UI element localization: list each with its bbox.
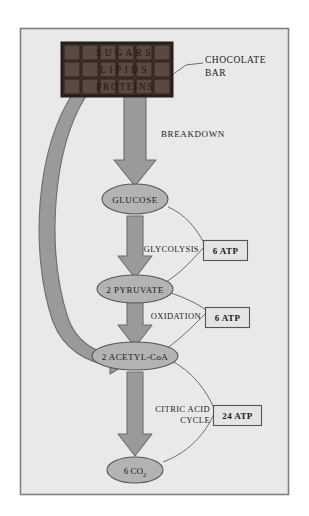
node-pyruvate-label: 2 PYRUVATE bbox=[106, 285, 164, 295]
step-glycolysis-label: GLYCOLYSIS bbox=[144, 244, 199, 254]
chocolate-bar-label-line2: BAR bbox=[205, 68, 226, 78]
atp-box-citric-acid-cycle-value: 24 ATP bbox=[222, 411, 253, 421]
step-citric-acid-cycle-label-line2: CYCLE bbox=[180, 415, 210, 425]
chocolate-row-label-proteins: PROTEINS bbox=[96, 82, 154, 92]
node-co2-label-main: 6 CO bbox=[124, 466, 144, 476]
node-co2-label: 6 CO2 bbox=[124, 466, 147, 478]
node-co2: 6 CO2 bbox=[107, 457, 163, 483]
step-citric-acid-cycle-label-line1: CITRIC ACID bbox=[155, 404, 210, 414]
chocolate-row-label-lipids: LIPIDS bbox=[100, 65, 150, 75]
chocolate-bar: SUGARS LIPIDS PROTEINS bbox=[61, 42, 173, 97]
atp-box-oxidation-value: 6 ATP bbox=[215, 313, 241, 323]
node-co2-label-subscript: 2 bbox=[143, 471, 146, 478]
node-acetyl-coa: 2 ACETYL-CoA bbox=[92, 342, 178, 370]
chocolate-row-label-sugars: SUGARS bbox=[96, 48, 154, 58]
atp-box-glycolysis-value: 6 ATP bbox=[213, 246, 239, 256]
chocolate-bar-label-line1: CHOCOLATE bbox=[205, 55, 266, 65]
node-glucose: GLUCOSE bbox=[102, 184, 168, 214]
node-glucose-label: GLUCOSE bbox=[112, 195, 158, 205]
node-acetyl-coa-label: 2 ACETYL-CoA bbox=[102, 352, 169, 362]
breakdown-label: BREAKDOWN bbox=[161, 129, 225, 139]
diagram-canvas: SUGARS LIPIDS PROTEINS CHOCOLATE BAR BRE… bbox=[0, 0, 309, 516]
step-oxidation-label: OXIDATION bbox=[151, 311, 201, 321]
node-pyruvate: 2 PYRUVATE bbox=[97, 275, 173, 303]
